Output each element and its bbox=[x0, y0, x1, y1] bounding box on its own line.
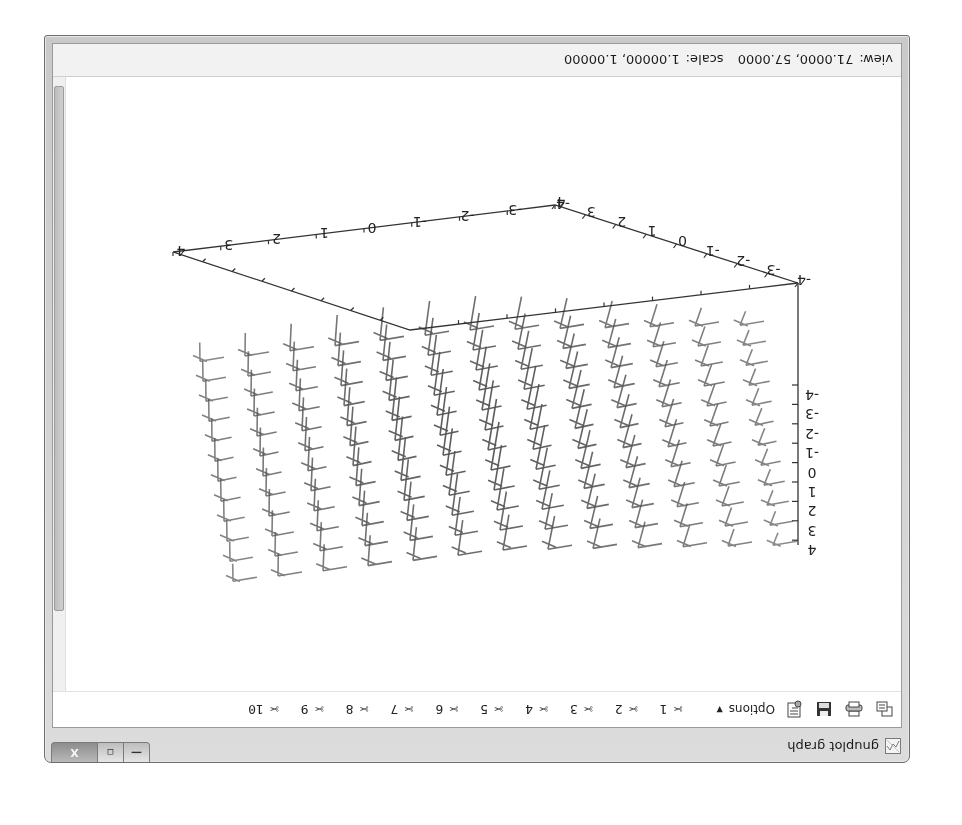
plot-toggle-3[interactable]: ✂3 bbox=[570, 701, 593, 719]
options-icon bbox=[785, 701, 803, 719]
options-menu-button[interactable]: Options ▼ bbox=[717, 703, 775, 717]
plot-toggle-label: 6 bbox=[435, 702, 443, 717]
scissors-icon: ✂ bbox=[315, 701, 324, 719]
close-icon: X bbox=[70, 746, 78, 759]
print-icon bbox=[845, 702, 863, 718]
plot-toggle-label: 1 bbox=[660, 702, 668, 717]
view-value: 71.0000, 57.0000 bbox=[738, 53, 854, 68]
plot-toggle-label: 8 bbox=[346, 702, 354, 717]
vertical-scrollbar[interactable] bbox=[53, 76, 66, 691]
plot-toggle-4[interactable]: ✂4 bbox=[525, 701, 548, 719]
options-icon-button[interactable] bbox=[783, 699, 805, 721]
client-area: Options ▼ ✂1 ✂2 ✂3 ✂4 ✂5 ✂6 ✂7 ✂8 ✂9 ✂10… bbox=[52, 43, 902, 728]
scissors-icon: ✂ bbox=[270, 701, 279, 719]
scale-value: 1.00000, 1.00000 bbox=[564, 53, 680, 68]
view-label: view: bbox=[859, 53, 893, 68]
plot-toggle-10[interactable]: ✂10 bbox=[248, 701, 279, 719]
maximize-button[interactable]: ▫ bbox=[97, 742, 123, 762]
plot-toggle-9[interactable]: ✂9 bbox=[301, 701, 324, 719]
caption-buttons: — ▫ X bbox=[51, 742, 150, 762]
plot-toggle-label: 7 bbox=[391, 702, 399, 717]
scissors-icon: ✂ bbox=[674, 701, 683, 719]
gnuplot-app-icon bbox=[885, 738, 901, 754]
scissors-icon: ✂ bbox=[539, 701, 548, 719]
window-title: gnuplot graph bbox=[787, 739, 879, 754]
maximize-icon: ▫ bbox=[107, 746, 114, 759]
minimize-icon: — bbox=[131, 746, 142, 759]
plot-toggle-label: 2 bbox=[615, 702, 623, 717]
plot-toggle-8[interactable]: ✂8 bbox=[346, 701, 369, 719]
scissors-icon: ✂ bbox=[494, 701, 503, 719]
plot-toggle-label: 9 bbox=[301, 702, 309, 717]
chevron-down-icon: ▼ bbox=[717, 705, 723, 714]
plot-canvas[interactable] bbox=[65, 76, 901, 691]
close-button[interactable]: X bbox=[51, 742, 97, 762]
title-bar[interactable]: gnuplot graph — ▫ X bbox=[45, 728, 909, 762]
scissors-icon: ✂ bbox=[584, 701, 593, 719]
plot-toggle-1[interactable]: ✂1 bbox=[660, 701, 683, 719]
copy-to-clipboard-icon bbox=[875, 702, 893, 718]
print-button[interactable] bbox=[843, 699, 865, 721]
scissors-icon: ✂ bbox=[404, 701, 413, 719]
options-label: Options bbox=[729, 703, 775, 717]
status-bar: view: 71.0000, 57.0000 scale: 1.00000, 1… bbox=[53, 44, 901, 77]
toolbar: Options ▼ ✂1 ✂2 ✂3 ✂4 ✂5 ✂6 ✂7 ✂8 ✂9 ✂10 bbox=[53, 691, 901, 727]
plot-toggle-label: 4 bbox=[525, 702, 533, 717]
minimize-button[interactable]: — bbox=[123, 742, 150, 762]
plot-toggle-2[interactable]: ✂2 bbox=[615, 701, 638, 719]
scale-label: scale: bbox=[686, 53, 724, 68]
plot-toggle-5[interactable]: ✂5 bbox=[480, 701, 503, 719]
scissors-icon: ✂ bbox=[359, 701, 368, 719]
scissors-icon: ✂ bbox=[449, 701, 458, 719]
scissors-icon: ✂ bbox=[629, 701, 638, 719]
gnuplot-window: gnuplot graph — ▫ X Options ▼ ✂1 bbox=[44, 35, 910, 763]
plot-toggle-7[interactable]: ✂7 bbox=[391, 701, 414, 719]
plot-toggle-label: 10 bbox=[248, 702, 264, 717]
copy-to-clipboard-button[interactable] bbox=[873, 699, 895, 721]
plot-toggle-6[interactable]: ✂6 bbox=[435, 701, 458, 719]
save-button[interactable] bbox=[813, 699, 835, 721]
plot-toggle-label: 5 bbox=[480, 702, 488, 717]
scrollbar-thumb[interactable] bbox=[54, 86, 64, 611]
plot-toggle-label: 3 bbox=[570, 702, 578, 717]
save-icon bbox=[816, 702, 832, 718]
